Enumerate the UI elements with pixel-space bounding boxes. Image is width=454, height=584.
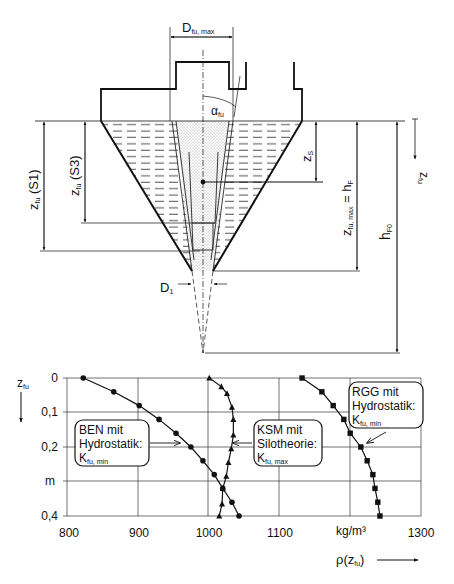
data-point-circle	[156, 417, 162, 423]
h-f0-label: hF0	[377, 224, 393, 240]
data-point-triangle	[228, 445, 234, 451]
data-point-triangle	[219, 501, 225, 507]
d-fu-max-dimension	[170, 27, 233, 121]
data-point-square	[377, 513, 382, 518]
data-point-triangle	[223, 473, 229, 479]
data-point-square	[375, 500, 380, 505]
data-point-triangle	[216, 513, 222, 519]
d-fu-max-label: Dfu, max	[182, 20, 215, 35]
data-point-circle	[211, 472, 217, 478]
data-point-circle	[200, 458, 206, 464]
data-point-square	[364, 458, 369, 463]
data-point-square	[319, 389, 324, 394]
data-point-square	[348, 431, 353, 436]
svg-text:0,4: 0,4	[41, 509, 58, 523]
data-point-circle	[173, 430, 179, 436]
svg-text:800: 800	[59, 526, 79, 540]
data-point-circle	[136, 403, 142, 409]
svg-text:kg/m³: kg/m³	[336, 524, 366, 538]
data-point-square	[370, 472, 375, 477]
data-point-triangle	[230, 416, 236, 422]
svg-text:900: 900	[129, 526, 149, 540]
annotation-ben: BEN mit Hydrostatik: Kfu, min	[75, 420, 180, 466]
x-tick-labels: 800 900 1000 1100 kg/m³ 1300	[59, 524, 435, 540]
data-point-circle	[236, 513, 242, 519]
data-point-triangle	[218, 383, 224, 389]
annotation-ksm: KSM mit Silotheorie: Kfu, max	[233, 420, 322, 466]
data-point-circle	[229, 499, 235, 505]
data-point-square	[299, 375, 304, 380]
alpha-fu-label: αfu	[211, 104, 224, 118]
z-fu-axis-label: zfu	[417, 172, 431, 184]
d1-label: D1	[160, 280, 173, 295]
series-triangle	[206, 375, 236, 519]
svg-text:1300: 1300	[408, 526, 435, 540]
data-point-square	[372, 486, 377, 491]
svg-text:m: m	[45, 474, 55, 488]
svg-text:1100: 1100	[267, 526, 293, 540]
data-point-circle	[188, 444, 194, 450]
density-chart: zfu 0 0,1 0,2 m 0,4 800 900 1000 1100 kg…	[17, 371, 435, 567]
svg-text:0,2: 0,2	[41, 440, 58, 454]
silo-top-structure	[101, 62, 302, 121]
data-point-circle	[80, 375, 86, 381]
svg-text:KSM mit: KSM mit	[257, 423, 303, 437]
z-s-label: zS	[299, 151, 314, 163]
svg-text:0: 0	[51, 371, 58, 385]
z-fu-s1-label: zfu (S1)	[26, 169, 41, 210]
y-axis-title: zfu	[17, 376, 29, 390]
x-axis-title: ρ(zfu)	[336, 552, 364, 567]
silo-hopper-diagram: Dfu, max αfu zS zfu, max = hF hF0	[26, 20, 431, 355]
data-point-square	[341, 417, 346, 422]
svg-text:Hydrostatik:: Hydrostatik:	[352, 399, 415, 413]
svg-text:RGG mit: RGG mit	[352, 385, 399, 399]
svg-text:1000: 1000	[196, 526, 223, 540]
data-point-triangle	[225, 459, 231, 465]
z-fu-s3-label: zfu (S3)	[67, 155, 82, 196]
annotation-rgg: RGG mit Hydrostatik: Kfu, min	[349, 382, 423, 443]
data-point-triangle	[229, 404, 235, 410]
z-fu-max-hf-label: zfu, max = hF	[339, 180, 354, 236]
data-point-square	[358, 444, 363, 449]
data-point-triangle	[206, 375, 212, 381]
svg-text:BEN mit: BEN mit	[79, 423, 124, 437]
svg-text:0,1: 0,1	[41, 405, 58, 419]
svg-text:Hydrostatik:: Hydrostatik:	[79, 437, 142, 451]
cone-extension	[192, 271, 213, 353]
data-point-triangle	[230, 432, 236, 438]
figure: Dfu, max αfu zS zfu, max = hF hF0	[0, 0, 454, 584]
data-point-square	[331, 403, 336, 408]
y-tick-labels: 0 0,1 0,2 m 0,4	[41, 371, 58, 523]
svg-text:Silotheorie:: Silotheorie:	[257, 437, 317, 451]
data-point-circle	[111, 389, 117, 395]
